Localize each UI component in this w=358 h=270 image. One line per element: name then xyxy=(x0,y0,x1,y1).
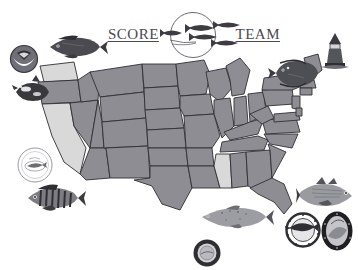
state-TN xyxy=(220,136,268,152)
noaa-seal-icon xyxy=(9,44,39,74)
flounder-illustration xyxy=(266,58,320,88)
state-IA xyxy=(180,94,214,116)
state-NM xyxy=(106,146,150,178)
state-AR xyxy=(186,148,214,166)
ring-seal-icon xyxy=(192,238,222,268)
oval-agency-seal-icon xyxy=(320,210,354,252)
state-WY xyxy=(100,92,146,122)
state-IN xyxy=(234,96,248,126)
lighthouse-illustration xyxy=(320,32,350,72)
state-AL xyxy=(230,152,248,188)
state-OK xyxy=(148,148,188,166)
striped-bass-illustration xyxy=(296,176,356,208)
fish-school-logo-icon xyxy=(158,16,244,54)
state-CT xyxy=(300,88,312,95)
state-NE xyxy=(145,108,184,130)
state-ND xyxy=(142,64,178,88)
research-institute-seal-icon xyxy=(15,146,55,184)
score-team-logo: SCORE TEAM xyxy=(108,12,280,56)
billfish-seal-icon xyxy=(285,212,321,248)
state-MN xyxy=(176,60,210,96)
state-SD xyxy=(144,86,180,110)
poster-canvas: SCORE TEAM xyxy=(0,0,358,270)
state-CO xyxy=(102,118,148,148)
sea-bass-illustration xyxy=(44,32,108,60)
state-KS xyxy=(147,128,186,148)
state-MO xyxy=(184,114,220,148)
state-DE xyxy=(296,108,302,116)
logo-word-score: SCORE xyxy=(108,26,159,43)
state-MT xyxy=(90,64,144,97)
salmon-illustration xyxy=(196,202,274,232)
orca-whale-illustration xyxy=(12,74,52,104)
yellow-perch-illustration xyxy=(22,182,86,214)
state-PA xyxy=(262,88,294,106)
